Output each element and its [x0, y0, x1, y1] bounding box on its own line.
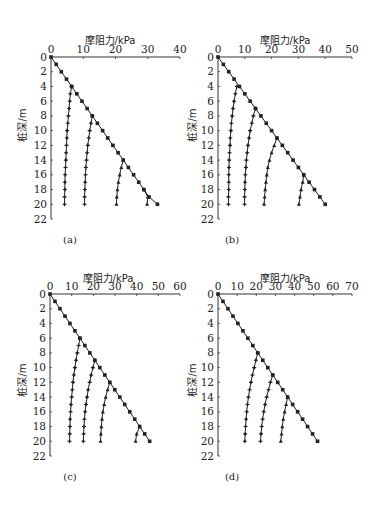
square-marker-icon: [297, 166, 301, 170]
square-marker-icon: [281, 388, 285, 392]
square-marker-icon: [236, 322, 240, 326]
square-marker-icon: [243, 92, 247, 96]
y-tick-label: 0: [207, 288, 214, 300]
triangle-marker-icon: [298, 195, 302, 199]
y-tick-label: 10: [201, 361, 214, 373]
triangle-marker-icon: [115, 187, 119, 191]
square-marker-icon: [116, 151, 120, 155]
y-tick-label: 22: [34, 213, 47, 225]
square-marker-icon: [226, 307, 230, 311]
y-tick-label: 12: [33, 376, 46, 388]
square-marker-icon: [133, 417, 137, 421]
square-marker-icon: [65, 77, 69, 81]
triangle-marker-icon: [116, 180, 120, 184]
y-tick-label: 18: [33, 420, 46, 432]
x-tick-label: 50: [152, 280, 165, 292]
square-marker-icon: [48, 292, 52, 296]
square-marker-icon: [323, 202, 327, 206]
y-tick-label: 0: [39, 288, 46, 300]
triangle-marker-icon: [280, 432, 284, 436]
y-tick-label: 10: [34, 124, 47, 136]
chart-panel-1: 0102030400246810121416182022摩阻力/kPa桩深/m(…: [16, 34, 187, 245]
square-marker-icon: [216, 292, 220, 296]
square-marker-icon: [73, 329, 77, 333]
triangle-marker-icon: [263, 195, 267, 199]
square-marker-icon: [264, 121, 268, 125]
series-line-stage2: [260, 375, 272, 441]
y-tick-label: 8: [207, 346, 214, 358]
triangle-marker-icon: [118, 173, 122, 177]
square-marker-icon: [60, 70, 64, 74]
y-tick-label: 4: [39, 317, 46, 329]
square-marker-icon: [68, 322, 72, 326]
y-tick-label: 8: [40, 109, 47, 121]
y-tick-label: 0: [207, 51, 214, 63]
x-tick-label: 50: [345, 43, 358, 55]
square-marker-icon: [307, 180, 311, 184]
square-marker-icon: [88, 351, 92, 355]
y-tick-label: 4: [207, 80, 214, 92]
triangle-marker-icon: [279, 439, 283, 443]
triangle-marker-icon: [264, 180, 268, 184]
x-tick-label: 70: [345, 280, 358, 292]
y-tick-label: 10: [33, 361, 46, 373]
panel-caption: (b): [225, 234, 239, 245]
triangle-marker-icon: [98, 439, 102, 443]
square-marker-icon: [53, 300, 57, 304]
triangle-marker-icon: [265, 173, 269, 177]
y-tick-label: 4: [207, 317, 214, 329]
triangle-marker-icon: [115, 195, 119, 199]
x-tick-label: 0: [47, 280, 54, 292]
y-tick-label: 6: [207, 95, 214, 107]
square-marker-icon: [231, 314, 235, 318]
square-marker-icon: [222, 63, 226, 67]
square-marker-icon: [261, 358, 265, 362]
triangle-marker-icon: [267, 158, 271, 162]
square-marker-icon: [103, 373, 107, 377]
y-tick-label: 12: [201, 139, 214, 151]
square-marker-icon: [281, 144, 285, 148]
square-marker-icon: [248, 99, 252, 103]
x-tick-label: 10: [238, 43, 251, 55]
square-marker-icon: [276, 381, 280, 385]
x-axis-title: 摩阻力/kPa: [85, 34, 136, 46]
triangle-marker-icon: [263, 187, 267, 191]
x-axis-title: 摩阻力/kPa: [83, 272, 134, 284]
chart-panel-3: 01020304050600246810121416182022摩阻力/kPa桩…: [16, 272, 187, 482]
triangle-marker-icon: [106, 388, 110, 392]
square-marker-icon: [216, 55, 220, 59]
y-tick-label: 16: [201, 405, 215, 417]
triangle-marker-icon: [100, 417, 104, 421]
square-marker-icon: [259, 114, 263, 118]
y-tick-label: 6: [39, 332, 46, 344]
square-marker-icon: [96, 121, 100, 125]
y-tick-label: 20: [201, 435, 214, 447]
y-axis-title: 桩深/m: [186, 363, 198, 396]
square-marker-icon: [58, 307, 62, 311]
x-tick-label: 10: [65, 280, 78, 292]
y-tick-label: 22: [201, 213, 214, 225]
y-tick-label: 6: [40, 95, 47, 107]
friction-resistance-charts: 0102030400246810121416182022摩阻力/kPa桩深/m(…: [0, 0, 370, 514]
triangle-marker-icon: [104, 395, 108, 399]
y-axis-title: 桩深/m: [186, 108, 198, 141]
square-marker-icon: [227, 70, 231, 74]
y-tick-label: 12: [34, 139, 47, 151]
square-marker-icon: [85, 107, 89, 111]
x-tick-label: 40: [319, 43, 332, 55]
square-marker-icon: [113, 388, 117, 392]
x-tick-label: 0: [215, 43, 222, 55]
triangle-marker-icon: [114, 202, 118, 206]
x-tick-label: 0: [215, 280, 222, 292]
y-tick-label: 20: [33, 435, 46, 447]
y-tick-label: 2: [39, 302, 46, 314]
chart-panel-4: 0102030405060700246810121416182022摩阻力/kP…: [186, 272, 359, 482]
y-tick-label: 20: [201, 198, 214, 210]
square-marker-icon: [313, 188, 317, 192]
chart-panel-2: 010203040500246810121416182022摩阻力/kPa桩深/…: [186, 34, 359, 245]
x-tick-label: 40: [173, 43, 186, 55]
panel-caption: (d): [225, 471, 239, 482]
triangle-marker-icon: [99, 432, 103, 436]
square-marker-icon: [306, 425, 310, 429]
square-marker-icon: [132, 173, 136, 177]
